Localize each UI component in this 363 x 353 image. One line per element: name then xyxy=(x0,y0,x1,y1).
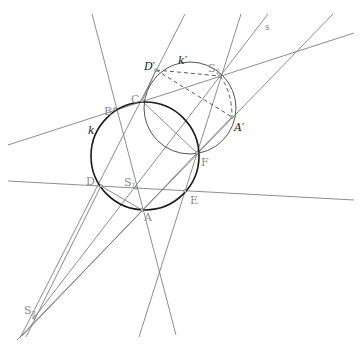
chord-c-f xyxy=(142,101,197,153)
label-a: A xyxy=(143,211,153,224)
line-b-c-s2 xyxy=(8,33,354,145)
point-d xyxy=(100,185,103,188)
label-k: k xyxy=(88,124,95,137)
label-c: C xyxy=(131,93,139,106)
label-s: s xyxy=(265,22,270,32)
label-e: E xyxy=(190,194,198,207)
chord-c-dprime xyxy=(142,70,156,101)
point-c xyxy=(141,100,144,103)
label-d-prime: D′ xyxy=(143,60,156,73)
label-s2: S2 xyxy=(208,62,220,76)
line-s3-f xyxy=(22,153,197,336)
line-b-a xyxy=(92,14,176,335)
line-s3-c xyxy=(20,14,185,338)
point-aprime xyxy=(231,116,234,119)
label-s1: S1 xyxy=(124,176,136,190)
label-f: F xyxy=(201,156,209,169)
label-a-prime: A′ xyxy=(233,121,245,134)
geometry-diagram: B C D E F A S1 S2 S3 D′ A′ k k′ s xyxy=(0,0,363,353)
label-b: B xyxy=(104,105,112,118)
point-markers xyxy=(33,69,234,320)
label-s3: S3 xyxy=(24,304,36,318)
point-a xyxy=(141,209,144,212)
label-d: D xyxy=(86,175,95,188)
line-s3-d xyxy=(26,186,101,337)
label-k-prime: k′ xyxy=(178,54,188,67)
point-b xyxy=(114,108,117,111)
point-e xyxy=(184,190,187,193)
point-f xyxy=(196,152,199,155)
circle-k-prime xyxy=(144,62,236,154)
